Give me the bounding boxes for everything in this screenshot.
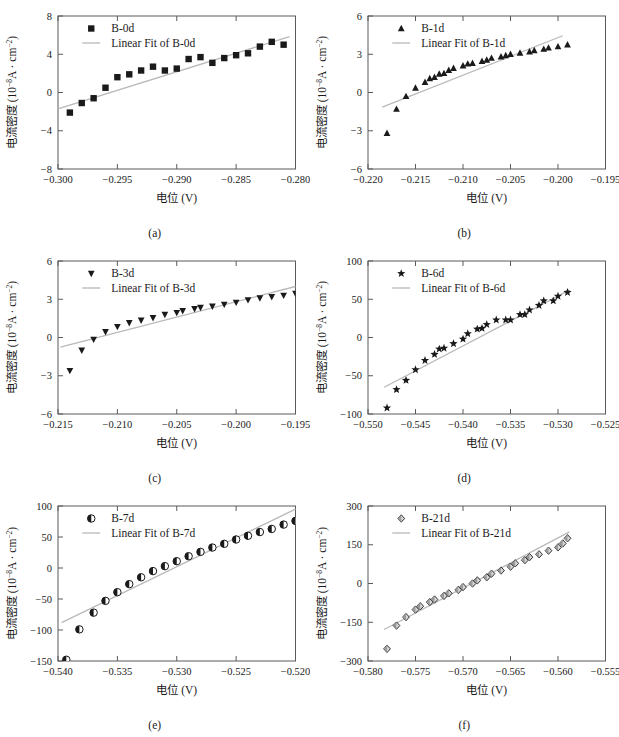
svg-text:−0.200: −0.200 xyxy=(221,419,251,430)
svg-text:电流密度 (10−8A · cm−2): 电流密度 (10−8A · cm−2) xyxy=(315,36,329,150)
svg-text:4: 4 xyxy=(47,49,53,60)
panel-caption: (d) xyxy=(310,472,619,484)
svg-text:电流密度 (10−8A · cm−2): 电流密度 (10−8A · cm−2) xyxy=(5,281,19,395)
svg-text:电位 (V): 电位 (V) xyxy=(156,683,197,697)
svg-text:−0.540: −0.540 xyxy=(43,666,73,677)
svg-text:−0.525: −0.525 xyxy=(590,419,619,430)
svg-text:−0.570: −0.570 xyxy=(448,666,478,677)
svg-text:300: 300 xyxy=(346,501,362,512)
svg-text:0: 0 xyxy=(356,87,361,98)
svg-text:−0.195: −0.195 xyxy=(281,419,310,430)
svg-text:−0.205: −0.205 xyxy=(162,419,192,430)
plot-area-b: −0.220−0.215−0.210−0.205−0.200−0.195−6−3… xyxy=(310,0,619,245)
svg-text:0: 0 xyxy=(356,332,361,343)
svg-text:Linear Fit of B-6d: Linear Fit of B-6d xyxy=(421,282,505,294)
svg-text:150: 150 xyxy=(346,539,362,550)
svg-text:电流密度 (10−8A · cm−2): 电流密度 (10−8A · cm−2) xyxy=(315,281,329,395)
panel-caption: (f) xyxy=(310,719,619,731)
svg-text:6: 6 xyxy=(356,11,361,22)
svg-text:−300: −300 xyxy=(340,656,362,667)
svg-text:−3: −3 xyxy=(350,125,361,136)
svg-text:−0.525: −0.525 xyxy=(221,666,251,677)
svg-text:−0.530: −0.530 xyxy=(162,666,192,677)
svg-text:B-3d: B-3d xyxy=(111,267,134,279)
svg-text:−0.285: −0.285 xyxy=(221,174,251,185)
svg-text:−0.555: −0.555 xyxy=(590,666,619,677)
svg-text:Linear Fit of B-7d: Linear Fit of B-7d xyxy=(111,527,195,539)
svg-text:电位 (V): 电位 (V) xyxy=(466,683,507,697)
svg-text:−0.280: −0.280 xyxy=(281,174,310,185)
svg-text:−3: −3 xyxy=(41,370,52,381)
svg-text:100: 100 xyxy=(346,256,362,267)
svg-text:电位 (V): 电位 (V) xyxy=(466,436,507,450)
svg-text:0: 0 xyxy=(47,563,52,574)
svg-text:−0.215: −0.215 xyxy=(43,419,73,430)
svg-text:−0.575: −0.575 xyxy=(400,666,430,677)
chart-panel-b: −0.220−0.215−0.210−0.205−0.200−0.195−6−3… xyxy=(310,0,619,245)
svg-text:−8: −8 xyxy=(41,164,52,175)
svg-text:−0.300: −0.300 xyxy=(43,174,73,185)
panel-caption: (c) xyxy=(0,472,310,484)
svg-text:−6: −6 xyxy=(41,409,52,420)
svg-text:电位 (V): 电位 (V) xyxy=(156,436,197,450)
plot-area-d: −0.550−0.545−0.540−0.535−0.530−0.525−100… xyxy=(310,245,619,490)
svg-text:电流密度 (10−8A · cm−2): 电流密度 (10−8A · cm−2) xyxy=(5,527,19,641)
svg-text:−0.210: −0.210 xyxy=(103,419,133,430)
svg-text:电位 (V): 电位 (V) xyxy=(466,191,507,205)
svg-text:B-7d: B-7d xyxy=(111,512,134,524)
svg-text:−0.560: −0.560 xyxy=(543,666,573,677)
panel-caption: (a) xyxy=(0,227,310,239)
svg-text:B-0d: B-0d xyxy=(111,22,134,34)
svg-text:−150: −150 xyxy=(340,617,362,628)
panel-caption: (e) xyxy=(0,719,310,731)
svg-text:Linear Fit of B-0d: Linear Fit of B-0d xyxy=(111,37,195,49)
plot-area-e: −0.540−0.535−0.530−0.525−0.520−150−100−5… xyxy=(0,490,310,737)
plot-area-c: −0.215−0.210−0.205−0.200−0.195−6−3036B-3… xyxy=(0,245,310,490)
svg-text:100: 100 xyxy=(36,501,52,512)
svg-text:50: 50 xyxy=(42,532,53,543)
svg-text:0: 0 xyxy=(47,332,52,343)
svg-text:0: 0 xyxy=(47,87,52,98)
svg-text:Linear Fit of B-3d: Linear Fit of B-3d xyxy=(111,282,195,294)
svg-text:−0.535: −0.535 xyxy=(495,419,525,430)
svg-text:3: 3 xyxy=(356,49,361,60)
svg-text:50: 50 xyxy=(351,294,362,305)
figure-grid: −0.300−0.295−0.290−0.285−0.280−8−4048B-0… xyxy=(0,0,619,737)
svg-text:−0.290: −0.290 xyxy=(162,174,192,185)
svg-text:电流密度 (10−8A · cm−2): 电流密度 (10−8A · cm−2) xyxy=(5,36,19,150)
svg-text:−0.520: −0.520 xyxy=(281,666,310,677)
chart-panel-f: −0.580−0.575−0.570−0.565−0.560−0.555−300… xyxy=(310,490,619,737)
chart-panel-d: −0.550−0.545−0.540−0.535−0.530−0.525−100… xyxy=(310,245,619,490)
chart-panel-c: −0.215−0.210−0.205−0.200−0.195−6−3036B-3… xyxy=(0,245,310,490)
svg-text:−0.210: −0.210 xyxy=(448,174,478,185)
chart-panel-e: −0.540−0.535−0.530−0.525−0.520−150−100−5… xyxy=(0,490,310,737)
svg-text:8: 8 xyxy=(47,11,52,22)
svg-text:−0.545: −0.545 xyxy=(400,419,430,430)
svg-text:−0.205: −0.205 xyxy=(495,174,525,185)
svg-text:−0.565: −0.565 xyxy=(495,666,525,677)
svg-text:Linear Fit of B-1d: Linear Fit of B-1d xyxy=(421,37,505,49)
plot-area-a: −0.300−0.295−0.290−0.285−0.280−8−4048B-0… xyxy=(0,0,310,245)
svg-text:−0.195: −0.195 xyxy=(590,174,619,185)
svg-text:B-21d: B-21d xyxy=(421,512,450,524)
svg-text:−0.580: −0.580 xyxy=(353,666,383,677)
chart-panel-a: −0.300−0.295−0.290−0.285−0.280−8−4048B-0… xyxy=(0,0,310,245)
svg-text:−150: −150 xyxy=(30,656,52,667)
svg-text:−0.200: −0.200 xyxy=(543,174,573,185)
svg-text:−50: −50 xyxy=(345,370,361,381)
svg-text:−0.220: −0.220 xyxy=(353,174,383,185)
plot-area-f: −0.580−0.575−0.570−0.565−0.560−0.555−300… xyxy=(310,490,619,737)
panel-caption: (b) xyxy=(310,227,619,239)
svg-text:3: 3 xyxy=(47,294,52,305)
svg-text:−100: −100 xyxy=(340,409,362,420)
svg-text:B-1d: B-1d xyxy=(421,22,444,34)
svg-text:6: 6 xyxy=(47,256,52,267)
svg-text:电位 (V): 电位 (V) xyxy=(156,191,197,205)
svg-text:B-6d: B-6d xyxy=(421,267,444,279)
svg-text:−0.550: −0.550 xyxy=(353,419,383,430)
svg-text:−0.295: −0.295 xyxy=(103,174,133,185)
svg-text:−0.215: −0.215 xyxy=(400,174,430,185)
svg-text:−6: −6 xyxy=(350,164,361,175)
svg-text:Linear Fit of B-21d: Linear Fit of B-21d xyxy=(421,527,511,539)
svg-text:−0.535: −0.535 xyxy=(103,666,133,677)
